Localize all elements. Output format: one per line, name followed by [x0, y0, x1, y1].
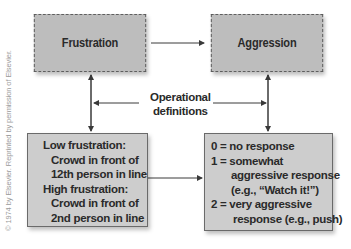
score-1: 1 = somewhat	[211, 154, 283, 169]
score-1-line3: (e.g., “Watch it!”)	[231, 183, 319, 198]
high-frustration-line2: 2nd person in line	[51, 211, 144, 226]
low-frustration-heading: Low frustration:	[43, 138, 126, 153]
score-2: 2 = very aggressive	[211, 197, 312, 212]
low-frustration-line1: Crowd in front of	[51, 153, 139, 168]
score-2-line2: response (e.g., push)	[233, 212, 342, 227]
score-1-line2: aggressive response	[231, 168, 340, 183]
op-line2: definitions	[150, 104, 211, 118]
aggression-box: Aggression	[211, 14, 323, 72]
aggression-label: Aggression	[238, 36, 297, 50]
score-0: 0 = no response	[211, 139, 294, 154]
frustration-box: Frustration	[34, 14, 146, 72]
op-line1: Operational	[150, 90, 211, 104]
copyright-credit: © 1974 by Elsevier. Reprinted by permiss…	[4, 50, 13, 231]
high-frustration-heading: High frustration:	[43, 182, 128, 197]
operational-definitions-label: Operational definitions	[150, 90, 211, 118]
high-frustration-line1: Crowd in front of	[51, 196, 139, 211]
low-frustration-line2: 12th person in line	[51, 167, 147, 182]
frustration-label: Frustration	[62, 36, 118, 50]
aggression-operationalization-box: 0 = no response 1 = somewhat aggressive …	[204, 133, 333, 231]
frustration-operationalization-box: Low frustration: Crowd in front of 12th …	[27, 133, 148, 227]
